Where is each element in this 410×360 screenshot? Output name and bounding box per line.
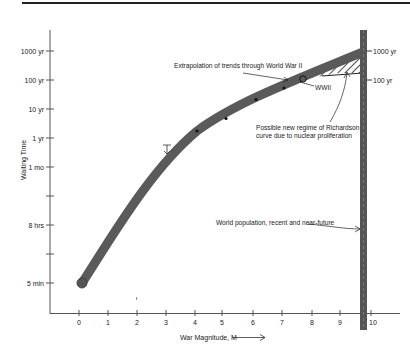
y-axis-label: Waiting Time <box>20 140 28 180</box>
xtick-9: 9 <box>338 319 342 326</box>
annotation-extrapolation-arrow-icon <box>243 73 288 82</box>
ytick-8hrs: 8 hrs <box>28 222 44 229</box>
x-direction-arrow-icon <box>232 335 265 341</box>
curve-start-cap <box>77 278 87 288</box>
xtick-6: 6 <box>251 319 255 326</box>
ytick-1yr: 1 yr <box>32 135 44 143</box>
xtick-4: 4 <box>193 319 197 326</box>
ytick-5min: 5 min <box>27 280 44 287</box>
xtick-0: 0 <box>77 319 81 326</box>
right-tick-100yr: 100 yr <box>373 77 393 85</box>
x-axis-label: War Magnitude, M <box>180 334 237 342</box>
right-tick-1000yr: 1000 yr <box>373 48 397 56</box>
ytick-100yr: 100 yr <box>25 77 45 85</box>
xtick-1: 1 <box>106 319 110 326</box>
xtick-10: 10 <box>369 319 377 326</box>
annotation-wwii-arrow-icon <box>300 82 314 86</box>
annotation-extrapolation: Extrapolation of trends through World Wa… <box>174 62 302 70</box>
xtick-2: 2 <box>135 319 139 326</box>
xtick-7: 7 <box>280 319 284 326</box>
xtick-3: 3 <box>164 319 168 326</box>
xtick-8: 8 <box>310 319 314 326</box>
ytick-10yr: 10 yr <box>28 106 44 114</box>
ytick-1000yr: 1000 yr <box>21 48 45 56</box>
annotation-world-population: World population, recent and near-future <box>216 219 335 227</box>
annotation-regime-arrow-icon <box>330 72 350 122</box>
xtick-5: 5 <box>220 319 224 326</box>
richardson-chart: 1000 yr 100 yr 10 yr 1 yr 1 mo 8 hrs 5 m… <box>0 0 410 360</box>
annotation-wwii: WWII <box>315 84 331 91</box>
annotation-regime-line1: Possible new regime of Richardson <box>256 124 360 132</box>
ytick-1mo: 1 mo <box>28 164 44 171</box>
right-ticks <box>367 51 372 80</box>
annotation-regime-line2: curve due to nuclear proliferation <box>256 132 352 140</box>
